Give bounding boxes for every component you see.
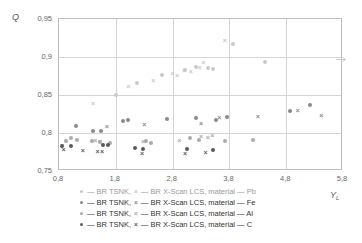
x-tick-label: 0,8 bbox=[45, 174, 71, 183]
data-point-dot bbox=[211, 67, 215, 71]
x-axis-title-subscript: L bbox=[336, 195, 339, 201]
data-point-dot bbox=[308, 103, 312, 107]
data-point-cross: × bbox=[91, 99, 95, 106]
data-point-cross: × bbox=[81, 147, 85, 154]
data-point-dot bbox=[194, 116, 198, 120]
data-point-dot bbox=[106, 143, 110, 147]
data-point-dot bbox=[126, 118, 130, 122]
data-point-dot bbox=[133, 146, 137, 150]
gridline-vertical bbox=[173, 19, 174, 169]
y-tick-label: 0,95 bbox=[26, 14, 52, 23]
data-point-cross: × bbox=[223, 36, 227, 43]
legend-dot-label: — BR TSNK, bbox=[87, 209, 131, 218]
data-point-cross: × bbox=[142, 120, 146, 127]
legend-dot-marker-icon bbox=[80, 201, 83, 204]
x-tick-label: 2,8 bbox=[159, 174, 185, 183]
data-point-dot bbox=[288, 109, 292, 113]
data-point-dot bbox=[188, 136, 192, 140]
legend: — BR TSNK,×— BR X-Scan LCS, material — P… bbox=[80, 186, 330, 230]
data-point-dot bbox=[135, 81, 139, 85]
x-tick-label: 4,8 bbox=[272, 174, 298, 183]
legend-cross-marker-icon: × bbox=[134, 221, 138, 228]
data-point-cross: × bbox=[105, 122, 109, 129]
gridline-vertical bbox=[116, 19, 117, 169]
data-point-cross: × bbox=[189, 67, 193, 74]
data-point-cross: × bbox=[100, 148, 104, 155]
legend-cross-label: — BR X-Scan LCS, material — C bbox=[141, 220, 252, 229]
data-point-cross: × bbox=[96, 147, 100, 154]
data-point-dot bbox=[165, 117, 169, 121]
legend-dot-label: — BR TSNK, bbox=[87, 187, 131, 196]
data-point-dot bbox=[121, 119, 125, 123]
data-point-cross: × bbox=[183, 150, 187, 157]
data-point-cross: × bbox=[140, 149, 144, 156]
data-point-dot bbox=[223, 139, 227, 143]
data-point-cross: × bbox=[201, 58, 205, 65]
data-point-cross: × bbox=[256, 112, 260, 119]
chart-figure: Q YL 0,750,80,850,90,95 0,81,82,83,84,85… bbox=[0, 0, 362, 243]
legend-row: — BR TSNK,×— BR X-Scan LCS, material — P… bbox=[80, 186, 330, 197]
legend-cross-marker-icon: × bbox=[134, 210, 138, 217]
data-point-dot bbox=[69, 144, 73, 148]
gridline-vertical bbox=[229, 19, 230, 169]
data-point-dot bbox=[160, 73, 164, 77]
data-point-dot bbox=[206, 66, 210, 70]
data-point-cross: × bbox=[206, 133, 210, 140]
data-point-cross: × bbox=[171, 69, 175, 76]
data-point-cross: × bbox=[177, 137, 181, 144]
data-point-cross: × bbox=[175, 71, 179, 78]
data-point-dot bbox=[74, 124, 78, 128]
x-tick-label: 1,8 bbox=[102, 174, 128, 183]
data-point-dot bbox=[231, 42, 235, 46]
data-point-cross: × bbox=[182, 66, 186, 73]
data-point-dot bbox=[263, 60, 267, 64]
gridline-horizontal bbox=[59, 95, 341, 96]
data-point-cross: × bbox=[203, 148, 207, 155]
legend-dot-label: — BR TSNK, bbox=[87, 220, 131, 229]
legend-cross-label: — BR X-Scan LCS, material — Pb bbox=[141, 187, 256, 196]
data-point-cross: × bbox=[98, 137, 102, 144]
y-tick-label: 0,8 bbox=[26, 128, 52, 137]
legend-row: — BR TSNK,×— BR X-Scan LCS, material — A… bbox=[80, 208, 330, 219]
legend-row: — BR TSNK,×— BR X-Scan LCS, material — F… bbox=[80, 197, 330, 208]
data-point-cross: × bbox=[199, 119, 203, 126]
y-tick-label: 0,85 bbox=[26, 90, 52, 99]
x-axis-arrow bbox=[336, 56, 348, 63]
data-point-cross: × bbox=[151, 76, 155, 83]
data-point-cross: × bbox=[93, 136, 97, 143]
y-axis-title: Q bbox=[12, 12, 19, 22]
legend-dot-marker-icon bbox=[80, 190, 83, 193]
data-point-dot bbox=[149, 141, 153, 145]
legend-dot-label: — BR TSNK, bbox=[87, 198, 131, 207]
legend-cross-label: — BR X-Scan LCS, material — Fe bbox=[141, 198, 256, 207]
legend-cross-marker-icon: × bbox=[134, 199, 138, 206]
data-point-cross: × bbox=[141, 137, 145, 144]
legend-row: — BR TSNK,×— BR X-Scan LCS, material — C bbox=[80, 219, 330, 230]
plot-area: ×××××××××××××××××××××××××××××××× bbox=[58, 18, 342, 170]
x-tick-label: 5,8 bbox=[329, 174, 355, 183]
x-tick-label: 3,8 bbox=[215, 174, 241, 183]
legend-cross-label: — BR X-Scan LCS, material — Al bbox=[141, 209, 253, 218]
data-point-cross: × bbox=[61, 145, 65, 152]
data-point-dot bbox=[251, 138, 255, 142]
data-point-dot bbox=[108, 141, 112, 145]
data-point-dot bbox=[75, 138, 79, 142]
data-point-cross: × bbox=[296, 107, 300, 114]
data-point-cross: × bbox=[199, 133, 203, 140]
y-tick-label: 0,9 bbox=[26, 52, 52, 61]
legend-dot-marker-icon bbox=[80, 223, 83, 226]
data-point-cross: × bbox=[210, 131, 214, 138]
legend-cross-marker-icon: × bbox=[134, 188, 138, 195]
data-point-dot bbox=[69, 136, 73, 140]
data-point-cross: × bbox=[319, 111, 323, 118]
data-point-dot bbox=[211, 148, 215, 152]
gridline-horizontal bbox=[59, 57, 341, 58]
gridline-vertical bbox=[286, 19, 287, 169]
legend-dot-marker-icon bbox=[80, 212, 83, 215]
x-axis-title: YL bbox=[330, 190, 339, 201]
data-point-cross: × bbox=[126, 82, 130, 89]
data-point-cross: × bbox=[217, 114, 221, 121]
